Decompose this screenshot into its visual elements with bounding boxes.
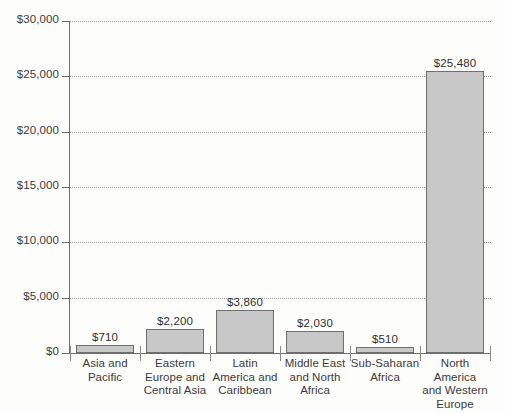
x-axis-category-line: Asia and	[70, 357, 140, 371]
x-axis-category-line: Caribbean	[210, 384, 280, 398]
x-axis-category-line: Europe	[420, 398, 490, 412]
bar-chart: $0$5,000$10,000$15,000$20,000$25,000$30,…	[0, 0, 505, 413]
y-axis-tick-label: $0	[0, 345, 59, 357]
x-axis-category-line: and North	[280, 371, 350, 385]
x-axis-category-label: EasternEurope andCentral Asia	[140, 357, 210, 398]
bar[interactable]	[146, 329, 204, 353]
y-axis-tick-label: $15,000	[0, 179, 59, 191]
x-axis-category-line: Europe and	[140, 371, 210, 385]
bar-value-label: $510	[350, 333, 420, 345]
bar-value-label: $2,030	[280, 317, 350, 329]
x-axis-category-line: and Western	[420, 384, 490, 398]
bar-value-label: $710	[70, 331, 140, 343]
x-axis-category-line: Sub-Saharan	[350, 357, 420, 371]
x-axis-category-line: America	[420, 371, 490, 385]
plot-area: $710$2,200$3,860$2,030$510$25,480	[69, 21, 490, 353]
x-axis-category-line: Pacific	[70, 371, 140, 385]
y-axis-tick-label: $5,000	[0, 290, 59, 302]
x-axis-line	[62, 353, 490, 354]
x-axis-category-line: Africa	[280, 384, 350, 398]
x-axis-category-line: Latin	[210, 357, 280, 371]
y-axis-tick-label: $25,000	[0, 68, 59, 80]
bar-value-label: $2,200	[140, 315, 210, 327]
x-axis-category-line: Middle East	[280, 357, 350, 371]
x-axis-separator	[490, 346, 491, 361]
x-axis-category-label: Asia andPacific	[70, 357, 140, 384]
x-axis-category-line: North	[420, 357, 490, 371]
x-axis-category-line: America and	[210, 371, 280, 385]
bar-value-label: $25,480	[420, 57, 490, 69]
y-axis-tick-label: $20,000	[0, 124, 59, 136]
bar[interactable]	[216, 310, 274, 353]
bar[interactable]	[426, 71, 484, 353]
x-axis-category-label: Sub-SaharanAfrica	[350, 357, 420, 384]
x-axis-category-line: Central Asia	[140, 384, 210, 398]
bar[interactable]	[286, 331, 344, 353]
bar-value-label: $3,860	[210, 296, 280, 308]
bar[interactable]	[76, 345, 134, 353]
x-axis-category-label: LatinAmerica andCaribbean	[210, 357, 280, 398]
x-axis-category-line: Eastern	[140, 357, 210, 371]
x-axis-category-label: NorthAmericaand WesternEurope	[420, 357, 490, 411]
y-axis-tick-label: $30,000	[0, 13, 59, 25]
x-axis-category-line: Africa	[350, 371, 420, 385]
y-axis-tick-label: $10,000	[0, 234, 59, 246]
x-axis-category-label: Middle Eastand NorthAfrica	[280, 357, 350, 398]
